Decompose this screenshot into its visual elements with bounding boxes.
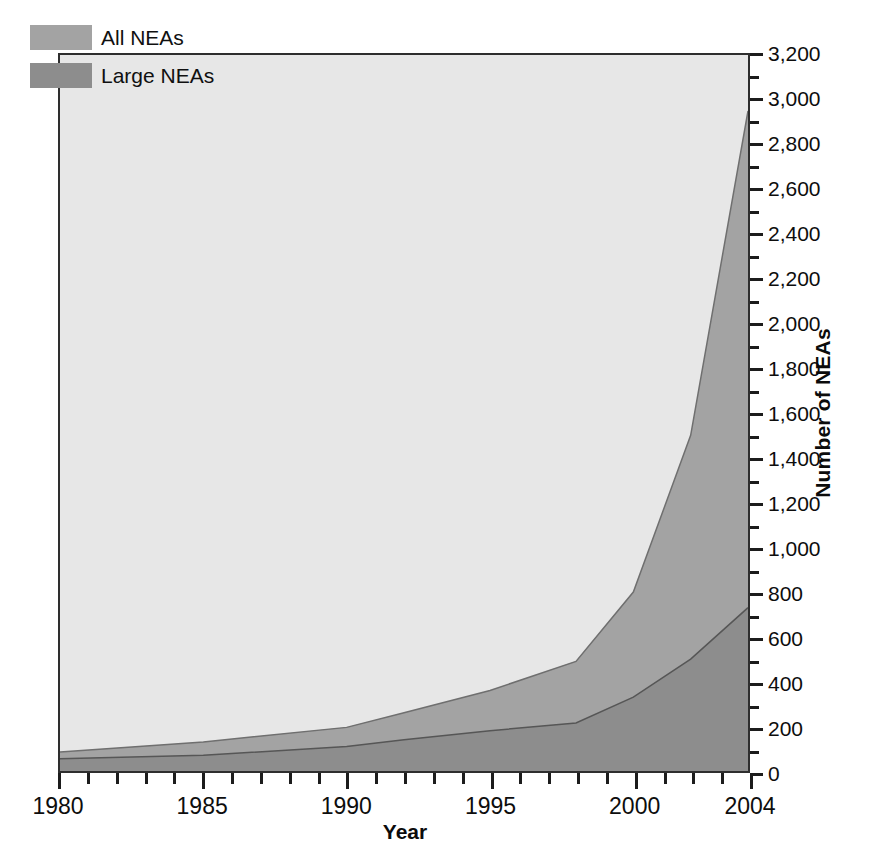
x-axis-minor-tick xyxy=(231,773,234,784)
y-axis-minor-tick xyxy=(750,706,759,709)
chart-figure: All NEAs Large NEAs 02004006008001,0001,… xyxy=(0,0,884,864)
y-axis-major-tick xyxy=(750,728,763,731)
x-axis-minor-tick xyxy=(116,773,119,784)
x-axis-minor-tick xyxy=(375,773,378,784)
y-axis-major-tick xyxy=(750,413,763,416)
y-axis-major-tick xyxy=(750,188,763,191)
y-axis-minor-tick xyxy=(750,256,759,259)
y-axis-minor-tick xyxy=(750,751,759,754)
x-axis-minor-tick xyxy=(87,773,90,784)
legend-label-all-neas: All NEAs xyxy=(101,27,184,48)
x-axis-tick-label: 2000 xyxy=(609,795,660,818)
y-axis-minor-tick xyxy=(750,121,759,124)
x-axis-tick-label: 2004 xyxy=(724,795,775,818)
x-axis-major-tick xyxy=(202,773,205,789)
x-axis-major-tick xyxy=(491,773,494,789)
y-axis-minor-tick xyxy=(750,661,759,664)
x-axis-minor-tick xyxy=(289,773,292,784)
y-axis-tick-label: 200 xyxy=(768,718,803,739)
chart-legend: All NEAs Large NEAs xyxy=(30,22,214,98)
x-axis-title: Year xyxy=(0,820,810,844)
x-axis-minor-tick xyxy=(404,773,407,784)
x-axis-tick-label: 1985 xyxy=(177,795,228,818)
x-axis-minor-tick xyxy=(318,773,321,784)
y-axis-minor-tick xyxy=(750,301,759,304)
x-axis-major-tick xyxy=(58,773,61,789)
y-axis-minor-tick xyxy=(750,436,759,439)
y-axis-title: Number of NEAs xyxy=(806,53,840,773)
y-axis-minor-tick xyxy=(750,571,759,574)
x-axis-tick-label: 1980 xyxy=(32,795,83,818)
area-series-svg xyxy=(60,55,748,771)
y-axis-major-tick xyxy=(750,233,763,236)
legend-item-large-neas: Large NEAs xyxy=(30,60,214,90)
y-axis-major-tick xyxy=(750,683,763,686)
y-axis-minor-tick xyxy=(750,526,759,529)
x-axis-major-tick xyxy=(750,773,753,789)
y-axis-minor-tick xyxy=(750,76,759,79)
x-axis-major-tick xyxy=(635,773,638,789)
y-axis-major-tick xyxy=(750,638,763,641)
legend-swatch-large-neas xyxy=(30,63,92,88)
x-axis-minor-tick xyxy=(577,773,580,784)
y-axis-title-text: Number of NEAs xyxy=(811,328,835,498)
y-axis-tick-label: 800 xyxy=(768,583,803,604)
x-axis-minor-tick xyxy=(462,773,465,784)
x-axis-minor-tick xyxy=(173,773,176,784)
x-axis-minor-tick xyxy=(145,773,148,784)
legend-label-large-neas: Large NEAs xyxy=(101,65,214,86)
y-axis-major-tick xyxy=(750,593,763,596)
y-axis-major-tick xyxy=(750,458,763,461)
x-axis-tick-label: 1990 xyxy=(321,795,372,818)
y-axis-tick-label: 600 xyxy=(768,628,803,649)
y-axis-major-tick xyxy=(750,368,763,371)
y-axis-minor-tick xyxy=(750,616,759,619)
y-axis-minor-tick xyxy=(750,391,759,394)
y-axis-major-tick xyxy=(750,98,763,101)
x-axis-tick-label: 1995 xyxy=(465,795,516,818)
x-axis-minor-tick xyxy=(519,773,522,784)
legend-swatch-all-neas xyxy=(30,25,92,50)
x-axis-minor-tick xyxy=(433,773,436,784)
area-all-neas xyxy=(60,111,748,771)
x-axis-minor-tick xyxy=(260,773,263,784)
y-axis-major-tick xyxy=(750,503,763,506)
y-axis-major-tick xyxy=(750,278,763,281)
x-axis-minor-tick xyxy=(664,773,667,784)
y-axis-tick-label: 0 xyxy=(768,763,780,784)
plot-area xyxy=(58,53,750,773)
y-axis-major-tick xyxy=(750,323,763,326)
x-axis: 198019851990199520002004 xyxy=(58,773,750,793)
x-axis-major-tick xyxy=(346,773,349,789)
x-axis-minor-tick xyxy=(548,773,551,784)
y-axis-minor-tick xyxy=(750,211,759,214)
y-axis-minor-tick xyxy=(750,166,759,169)
y-axis-major-tick xyxy=(750,53,763,56)
y-axis-major-tick xyxy=(750,143,763,146)
x-axis-minor-tick xyxy=(692,773,695,784)
y-axis-tick-label: 400 xyxy=(768,673,803,694)
x-axis-minor-tick xyxy=(606,773,609,784)
y-axis-major-tick xyxy=(750,548,763,551)
y-axis-minor-tick xyxy=(750,346,759,349)
x-axis-minor-tick xyxy=(721,773,724,784)
y-axis-minor-tick xyxy=(750,481,759,484)
legend-item-all-neas: All NEAs xyxy=(30,22,214,52)
